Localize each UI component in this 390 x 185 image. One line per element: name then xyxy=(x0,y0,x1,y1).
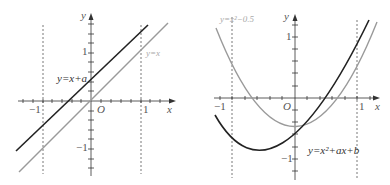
right-label-black-parabola: y=x²+ax+b xyxy=(308,144,359,156)
figure-canvas xyxy=(0,0,390,185)
right-tick-x-neg1: −1 xyxy=(214,100,226,112)
left-tick-y-1: 1 xyxy=(82,45,88,57)
left-x-axis-label: x xyxy=(167,103,172,115)
y-axis-arrow-icon xyxy=(293,14,298,21)
line-y-equals-x-plus-a xyxy=(16,25,148,151)
left-tick-x-neg1: −1 xyxy=(29,103,41,115)
right-x-axis-label: x xyxy=(375,100,380,112)
line-y-equals-x xyxy=(19,23,168,172)
right-label-gray-parabola: y=x²−0.5 xyxy=(220,14,254,24)
y-axis-arrow-icon xyxy=(89,13,94,20)
right-tick-x-1: 1 xyxy=(359,100,365,112)
left-tick-y-neg1: −1 xyxy=(76,141,88,153)
left-y-axis-label: y xyxy=(81,9,86,21)
right-y-axis-label: y xyxy=(284,10,289,22)
left-label-y-equals-x: y=x xyxy=(146,48,160,58)
left-tick-x-1: 1 xyxy=(143,103,149,115)
curve-y-equals-x-squared-minus-half xyxy=(216,22,377,127)
right-tick-y-neg1: −1 xyxy=(281,152,293,164)
right-origin-label: O xyxy=(283,100,291,112)
left-graph xyxy=(16,13,176,176)
right-tick-y-1: 1 xyxy=(286,30,292,42)
left-label-y-equals-x-plus-a: y=x+a xyxy=(57,72,87,84)
left-origin-label: O xyxy=(97,103,105,115)
